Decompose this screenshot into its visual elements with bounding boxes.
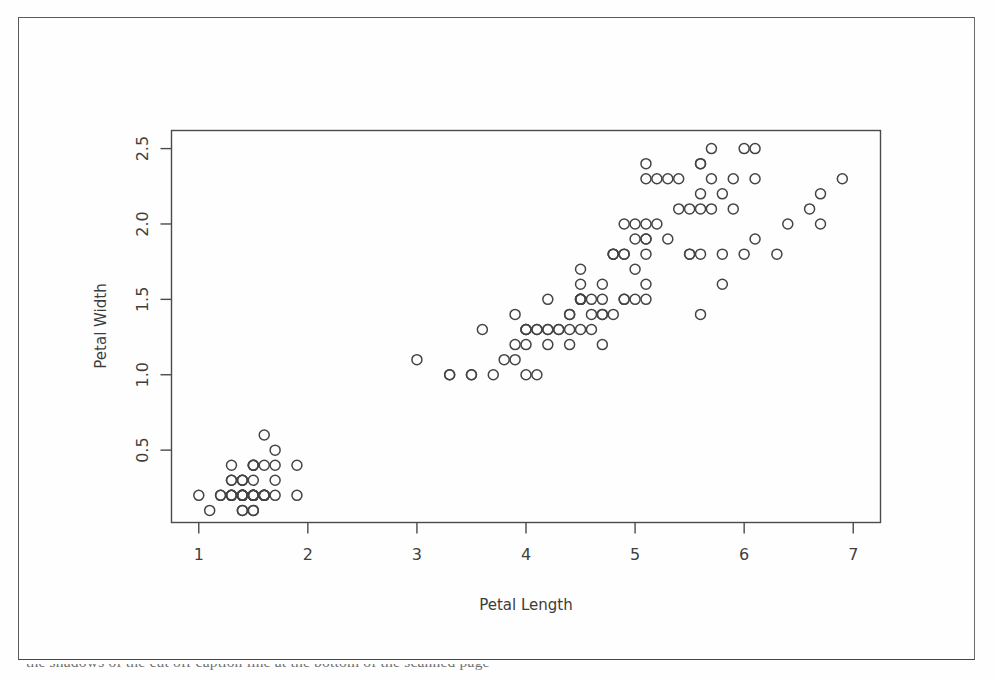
page-caption-remnant: the shadows of the cut off caption line …: [26, 664, 966, 679]
scatter-point: [597, 340, 607, 350]
x-axis-ticks: [199, 523, 853, 534]
scatter-point: [597, 294, 607, 304]
scatter-point: [586, 325, 596, 335]
scatter-point: [510, 355, 520, 365]
scatter-point: [194, 490, 204, 500]
scatter-point: [783, 219, 793, 229]
scatter-point: [270, 490, 280, 500]
scatter-point: [674, 174, 684, 184]
scatter-point: [270, 460, 280, 470]
scatter-point: [259, 490, 269, 500]
scatter-point: [576, 294, 586, 304]
plot-panel-box: [172, 131, 881, 523]
y-tick-label: 1.0: [133, 362, 152, 387]
scatter-point: [816, 219, 826, 229]
scatter-point: [750, 144, 760, 154]
x-tick-label: 6: [739, 545, 749, 564]
scatter-point: [226, 460, 236, 470]
caption-text: the shadows of the cut off caption line …: [26, 664, 966, 671]
scatter-point: [586, 309, 596, 319]
scatter-point: [619, 249, 629, 259]
scatter-point: [630, 294, 640, 304]
scatter-point: [565, 325, 575, 335]
scatter-point: [696, 189, 706, 199]
scatter-point: [696, 204, 706, 214]
x-axis-tick-labels: 1234567: [194, 545, 859, 564]
plot-canvas: 1234567 0.51.01.52.02.5 Petal Length Pet…: [0, 0, 995, 679]
scatter-plot-figure: 1234567 0.51.01.52.02.5 Petal Length Pet…: [0, 0, 995, 679]
scatter-point: [805, 204, 815, 214]
scatter-point: [837, 174, 847, 184]
scanned-page: 1234567 0.51.01.52.02.5 Petal Length Pet…: [0, 0, 995, 679]
scatter-point: [717, 249, 727, 259]
scatter-point: [663, 234, 673, 244]
x-axis-title: Petal Length: [479, 596, 573, 614]
scatter-point: [586, 294, 596, 304]
scatter-point: [641, 294, 651, 304]
scatter-point: [641, 249, 651, 259]
scatter-point: [412, 355, 422, 365]
scatter-point: [445, 370, 455, 380]
y-axis-tick-labels: 0.51.01.52.02.5: [133, 136, 152, 463]
scatter-point: [248, 505, 258, 515]
scatter-point: [750, 174, 760, 184]
x-tick-label: 5: [630, 545, 640, 564]
scatter-point: [292, 490, 302, 500]
scatter-point: [521, 340, 531, 350]
scatter-point: [226, 475, 236, 485]
scatter-point: [259, 430, 269, 440]
scatter-point: [226, 490, 236, 500]
x-tick-label: 1: [194, 545, 204, 564]
scatter-points-layer: [194, 144, 848, 516]
scatter-point: [750, 234, 760, 244]
scatter-point: [674, 204, 684, 214]
scatter-point: [248, 490, 258, 500]
scatter-point: [499, 355, 509, 365]
scatter-point: [521, 325, 531, 335]
scatter-point: [641, 159, 651, 169]
scatter-point: [597, 279, 607, 289]
scatter-point: [237, 490, 247, 500]
scatter-point: [706, 204, 716, 214]
scatter-point: [576, 325, 586, 335]
scatter-point: [543, 294, 553, 304]
scatter-point: [652, 174, 662, 184]
scatter-point: [728, 204, 738, 214]
scatter-point: [739, 144, 749, 154]
y-tick-label: 2.5: [133, 136, 152, 161]
scatter-point: [630, 219, 640, 229]
scatter-point: [565, 309, 575, 319]
scatter-point: [739, 249, 749, 259]
y-axis-ticks: [161, 149, 172, 451]
scatter-point: [576, 264, 586, 274]
scatter-point: [619, 294, 629, 304]
scatter-point: [685, 204, 695, 214]
scatter-point: [248, 475, 258, 485]
scatter-point: [532, 370, 542, 380]
scatter-point: [706, 174, 716, 184]
scatter-point: [696, 249, 706, 259]
scatter-point: [685, 249, 695, 259]
scatter-point: [641, 279, 651, 289]
scatter-point: [576, 279, 586, 289]
scatter-point: [543, 325, 553, 335]
scatter-point: [608, 249, 618, 259]
scatter-point: [641, 234, 651, 244]
y-tick-label: 2.0: [133, 211, 152, 236]
scatter-point: [237, 475, 247, 485]
scatter-point: [270, 475, 280, 485]
y-tick-label: 1.5: [133, 287, 152, 312]
scatter-point: [630, 264, 640, 274]
scatter-point: [216, 490, 226, 500]
scatter-point: [521, 370, 531, 380]
scatter-point: [641, 219, 651, 229]
y-axis-title: Petal Width: [92, 283, 110, 368]
scatter-point: [292, 460, 302, 470]
scatter-point: [259, 460, 269, 470]
scatter-point: [696, 309, 706, 319]
x-tick-label: 3: [412, 545, 422, 564]
scatter-point: [619, 219, 629, 229]
scatter-point: [717, 279, 727, 289]
scatter-point: [205, 505, 215, 515]
scatter-point: [706, 144, 716, 154]
